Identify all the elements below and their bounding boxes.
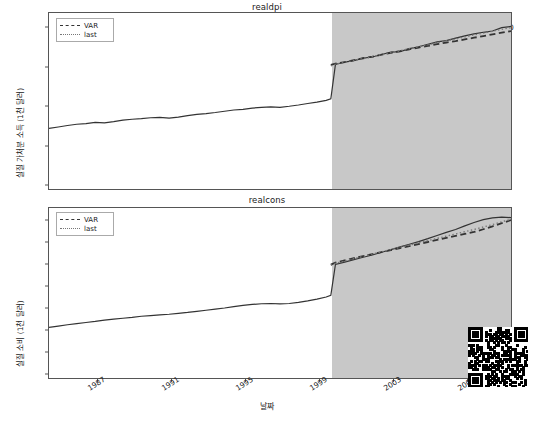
legend-item-last: last [60, 224, 109, 233]
panel-realcons: realcons 실질 소비 (1천 달러) 9000 8000 7000 60… [0, 195, 534, 421]
x-axis-label: 날짜 [0, 400, 534, 411]
legend-item-last: last [60, 30, 109, 39]
legend-label: last [84, 225, 97, 233]
legend-item-var: VAR [60, 215, 109, 224]
legend-item-var: VAR [60, 21, 109, 30]
legend-label: VAR [84, 22, 98, 30]
panel-realdpi: realdpi 실질 가처분 소득 (1천 달러) 10000 8000 600… [0, 0, 534, 195]
qr-code-icon [468, 327, 528, 387]
chart-title-realcons: realcons [0, 195, 534, 205]
legend-realcons: VAR last [56, 212, 114, 236]
legend-label: last [84, 31, 97, 39]
plot-area-realcons [48, 207, 512, 379]
chart-title-realdpi: realdpi [0, 2, 534, 12]
series-lines-realdpi [49, 13, 511, 189]
dotted-line-icon [60, 31, 80, 38]
dotted-line-icon [60, 225, 80, 232]
figure-canvas: realdpi 실질 가처분 소득 (1천 달러) 10000 8000 600… [0, 0, 534, 421]
legend-realdpi: VAR last [56, 18, 114, 42]
y-axis-label-realdpi: 실질 가처분 소득 (1천 달러) [14, 88, 25, 178]
dashed-line-icon [60, 22, 80, 29]
series-lines-realcons [49, 208, 511, 378]
y-axis-label-realcons: 실질 소비 (1천 달러) [14, 300, 25, 367]
dashed-line-icon [60, 216, 80, 223]
legend-label: VAR [84, 216, 98, 224]
plot-area-realdpi [48, 12, 512, 190]
